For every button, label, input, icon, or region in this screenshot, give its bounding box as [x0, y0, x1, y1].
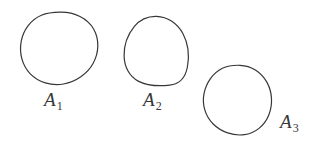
region-label-a3-subscript: 3 — [293, 121, 299, 135]
region-label-a1-subscript: 1 — [57, 99, 63, 113]
figure-background — [0, 0, 328, 150]
region-label-a2-base: A — [143, 89, 155, 110]
region-label-a1-base: A — [44, 89, 56, 110]
region-label-a2-subscript: 2 — [156, 99, 162, 113]
region-label-a2: A2 — [143, 90, 161, 109]
region-label-a3: A3 — [280, 112, 298, 131]
set-diagram-figure: A1 A2 A3 — [0, 0, 328, 150]
region-label-a1: A1 — [44, 90, 62, 109]
figure-canvas — [0, 0, 328, 150]
region-label-a3-base: A — [280, 111, 292, 132]
